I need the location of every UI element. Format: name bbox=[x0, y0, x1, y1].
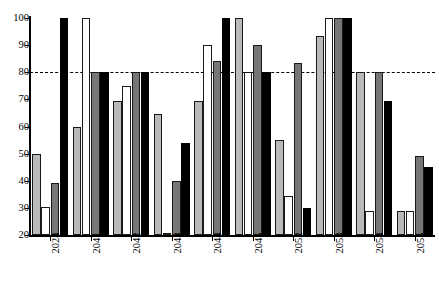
bar bbox=[415, 156, 424, 235]
bar-group bbox=[152, 18, 193, 235]
bar bbox=[82, 18, 91, 235]
bar-group bbox=[30, 18, 71, 235]
bar-groups bbox=[30, 18, 435, 235]
bar bbox=[343, 18, 352, 235]
x-tick-label: 2053 bbox=[334, 233, 345, 254]
bar bbox=[235, 18, 244, 235]
bar bbox=[294, 63, 303, 235]
bar bbox=[397, 211, 406, 235]
bar bbox=[194, 101, 203, 235]
bar bbox=[222, 18, 231, 235]
bar bbox=[316, 36, 325, 235]
bar bbox=[163, 233, 172, 235]
x-tick-label: 2043 bbox=[172, 233, 183, 254]
x-tick-label: 2055 bbox=[415, 233, 426, 254]
bar-group bbox=[395, 18, 436, 235]
bar bbox=[132, 72, 141, 235]
bar bbox=[244, 72, 253, 235]
bar bbox=[172, 181, 181, 235]
bar bbox=[73, 127, 82, 236]
bar bbox=[262, 72, 271, 235]
x-tick-label: 2045 bbox=[253, 233, 264, 254]
x-tick-label: 2054 bbox=[374, 233, 385, 254]
bar bbox=[303, 208, 312, 235]
x-tick-label: 2041 bbox=[91, 233, 102, 254]
bar-group bbox=[71, 18, 112, 235]
bar bbox=[100, 72, 109, 235]
footer-text bbox=[0, 275, 439, 281]
bar bbox=[406, 211, 415, 235]
bar bbox=[51, 183, 60, 235]
bar bbox=[113, 101, 122, 235]
bar-group bbox=[273, 18, 314, 235]
plot-area bbox=[30, 18, 435, 235]
bar-group bbox=[233, 18, 274, 235]
bar bbox=[181, 143, 190, 235]
x-tick-label: 2044 bbox=[212, 233, 223, 254]
bar bbox=[334, 18, 343, 235]
bar bbox=[325, 18, 334, 235]
bar bbox=[60, 18, 69, 235]
x-tick-label: 2052 bbox=[293, 233, 304, 254]
bar bbox=[424, 167, 433, 235]
bar-chart: 2030405060708090100 20242041204220432044… bbox=[0, 0, 439, 281]
y-axis-labels: 2030405060708090100 bbox=[0, 0, 29, 281]
bar bbox=[141, 72, 150, 235]
bar bbox=[41, 207, 50, 235]
bar bbox=[91, 72, 100, 235]
bar bbox=[365, 211, 374, 235]
bar bbox=[32, 154, 41, 235]
bar bbox=[122, 86, 131, 235]
bar-group bbox=[314, 18, 355, 235]
bar-group bbox=[192, 18, 233, 235]
bar bbox=[203, 45, 212, 235]
bar bbox=[384, 101, 393, 235]
bar bbox=[213, 61, 222, 235]
x-tick-label: 2042 bbox=[131, 233, 142, 254]
bar bbox=[284, 196, 293, 235]
bar-group bbox=[354, 18, 395, 235]
bar bbox=[275, 140, 284, 235]
bar bbox=[375, 72, 384, 235]
bar bbox=[253, 45, 262, 235]
bar-group bbox=[111, 18, 152, 235]
x-tick-label: 2024 bbox=[50, 233, 61, 254]
bar bbox=[154, 114, 163, 235]
bar bbox=[356, 72, 365, 235]
